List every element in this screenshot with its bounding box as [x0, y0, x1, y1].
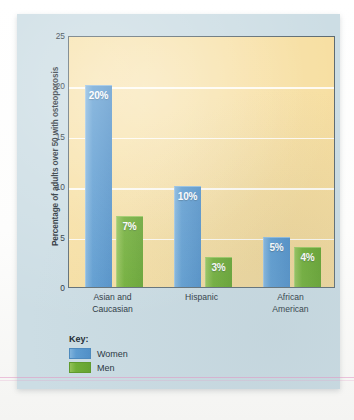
bar-men-african-american: 4%	[294, 247, 321, 287]
legend-title: Key:	[69, 334, 219, 344]
legend-swatch-women	[69, 348, 91, 359]
y-axis-tick-20: 20	[56, 81, 65, 91]
bar-value-label: 20%	[86, 90, 112, 101]
bar-chart: Percentage of adults over 50 with osteop…	[17, 14, 340, 389]
bar-women-hispanic: 10%	[174, 186, 201, 287]
x-axis-label-asian-and-caucasian: Asian andCaucasian	[70, 292, 156, 315]
bar-men-asian-and-caucasian: 7%	[116, 216, 143, 287]
bar-value-label: 4%	[295, 252, 321, 263]
figure-panel: Percentage of adults over 50 with osteop…	[17, 14, 340, 389]
x-axis-label-african-american: AfricanAmerican	[248, 292, 334, 315]
chart-legend: Key: WomenMen	[69, 334, 219, 376]
y-axis-tick-25: 25	[56, 31, 65, 41]
legend-label: Women	[97, 349, 128, 359]
legend-item-women: Women	[69, 348, 219, 359]
y-axis-tick-15: 15	[56, 132, 65, 142]
x-axis-category-labels: Asian andCaucasianHispanicAfricanAmerica…	[68, 292, 335, 326]
legend-entries: WomenMen	[69, 348, 219, 373]
legend-label: Men	[97, 363, 115, 373]
legend-item-men: Men	[69, 362, 219, 373]
bar-women-asian-and-caucasian: 20%	[85, 85, 112, 287]
bar-value-label: 5%	[264, 242, 290, 253]
legend-swatch-men	[69, 362, 91, 373]
x-axis-label-hispanic: Hispanic	[159, 292, 245, 304]
y-axis-tick-10: 10	[56, 182, 65, 192]
bar-value-label: 3%	[206, 262, 232, 273]
bar-value-label: 7%	[117, 221, 143, 232]
bar-men-hispanic: 3%	[205, 257, 232, 287]
y-axis-tick-5: 5	[60, 233, 65, 243]
bar-women-african-american: 5%	[263, 237, 290, 287]
y-axis-tick-0: 0	[60, 283, 65, 293]
y-axis-tick-labels: 0510152025	[39, 36, 65, 288]
plot-area: 20%7%10%3%5%4%	[68, 36, 335, 288]
bar-value-label: 10%	[175, 191, 201, 202]
